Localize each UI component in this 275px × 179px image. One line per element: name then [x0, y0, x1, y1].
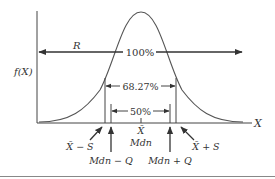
range-label: R	[72, 40, 81, 51]
y-axis-label: f(X)	[13, 66, 33, 77]
sd-percent: 68.27%	[122, 81, 158, 92]
normal-curve-diagram: X f(X) R 100% 68.27% 50% X̄ Mdn X̄ − S X…	[0, 0, 275, 179]
median-label: Mdn	[129, 137, 152, 148]
range-percent: 100%	[126, 47, 155, 58]
mean-label: X̄	[137, 125, 146, 136]
median-plus-q-label: Mdn + Q	[147, 155, 192, 166]
mean-minus-sd-label: X̄ − S	[65, 141, 94, 152]
quartile-percent: 50%	[130, 106, 151, 117]
mean-plus-sd-arrow	[181, 127, 194, 140]
x-axis-label: X	[253, 117, 263, 130]
median-minus-q-label: Mdn − Q	[88, 155, 133, 166]
mean-plus-sd-label: X̄ + S	[191, 141, 220, 152]
mean-minus-sd-arrow	[90, 127, 102, 140]
